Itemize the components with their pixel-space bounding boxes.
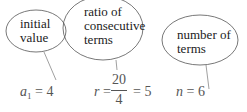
label-line: terms — [177, 42, 231, 56]
equals-sign: = — [35, 84, 43, 99]
label-line: terms — [84, 33, 145, 47]
subscript: 1 — [27, 91, 32, 101]
value-a1: 4 — [46, 84, 53, 99]
formula-n: n = 6 — [176, 84, 205, 100]
label-initial-value: initial value — [20, 17, 50, 45]
value-r: 5 — [144, 84, 151, 99]
fraction-bar — [111, 90, 127, 91]
formula-r-result: = 5 — [133, 84, 151, 100]
label-line: number of — [177, 28, 231, 42]
var-a: a — [20, 84, 27, 99]
fraction-numerator: 20 — [110, 72, 128, 88]
equals-sign: = — [133, 84, 141, 99]
label-line: consecutive — [84, 19, 145, 33]
arrow-number-of-terms — [206, 65, 209, 89]
formula-r-var: r = — [94, 84, 111, 100]
formula-a1: a1 = 4 — [20, 84, 53, 100]
equals-sign: = — [187, 84, 195, 99]
label-line: initial — [20, 17, 50, 31]
value-n: 6 — [198, 84, 205, 99]
arrow-initial-value — [44, 52, 56, 80]
fraction-denominator: 4 — [110, 92, 128, 108]
label-line: value — [20, 31, 50, 45]
var-r: r — [94, 84, 99, 99]
label-number-of-terms: number of terms — [177, 28, 231, 56]
label-line: ratio of — [84, 5, 145, 19]
arrow-ratio — [116, 60, 117, 70]
label-ratio: ratio of consecutive terms — [84, 5, 145, 47]
var-n: n — [176, 84, 183, 99]
